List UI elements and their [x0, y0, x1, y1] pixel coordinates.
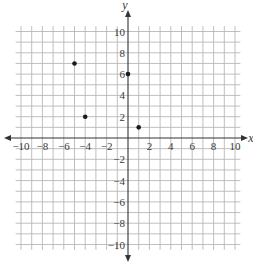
data-point	[72, 61, 77, 66]
data-point	[136, 125, 141, 130]
y-tick-label: −4	[113, 175, 125, 187]
axes: yx	[4, 0, 253, 262]
y-tick-label: −2	[113, 153, 125, 165]
x-tick-label: 6	[189, 140, 195, 152]
y-tick-label: −6	[113, 196, 125, 208]
x-tick-label: −2	[101, 140, 113, 152]
coordinate-plane: yx −10−8−6−4−2246810108642−2−4−6−8−10	[0, 0, 253, 265]
x-tick-label: −6	[58, 140, 70, 152]
x-tick-label: −10	[12, 140, 30, 152]
y-tick-label: −10	[108, 239, 126, 251]
x-axis-right-arrow-icon	[241, 135, 248, 141]
y-tick-label: 8	[120, 47, 126, 59]
y-axis-label: y	[121, 0, 128, 12]
data-point	[126, 72, 131, 77]
y-tick-label: 10	[114, 26, 126, 38]
x-axis-left-arrow-icon	[4, 135, 11, 141]
y-axis-down-arrow-icon	[125, 255, 131, 262]
x-tick-label: −8	[37, 140, 49, 152]
y-tick-label: 4	[120, 89, 126, 101]
y-tick-label: −8	[113, 217, 125, 229]
x-tick-label: 10	[230, 140, 242, 152]
y-tick-label: 2	[120, 111, 126, 123]
x-axis-label: x	[247, 131, 253, 145]
x-tick-label: 4	[168, 140, 174, 152]
x-tick-label: 8	[211, 140, 217, 152]
x-tick-label: 2	[147, 140, 153, 152]
x-tick-label: −4	[79, 140, 91, 152]
y-tick-label: 6	[120, 68, 126, 80]
data-point	[83, 114, 88, 119]
